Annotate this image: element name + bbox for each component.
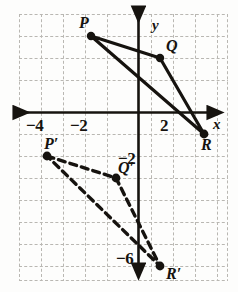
x-tick-pos2: 2 xyxy=(160,117,168,134)
y-tick-neg6: −6 xyxy=(116,250,133,267)
point-label-p: P xyxy=(79,15,89,31)
x-tick-neg4: −4 xyxy=(26,117,43,134)
vertex-p xyxy=(87,32,95,40)
coordinate-plane-figure: y x −4 −2 2 −2 −6 P Q R P′ Q′ R′ xyxy=(0,0,238,292)
vertex-r-prime xyxy=(156,262,165,271)
point-label-q-prime: Q′ xyxy=(118,160,134,176)
x-tick-neg2: −2 xyxy=(70,117,87,134)
vertex-p-prime xyxy=(43,152,52,161)
y-axis-label: y xyxy=(152,18,159,33)
point-label-r: R xyxy=(201,137,212,153)
point-label-p-prime: P′ xyxy=(44,136,58,152)
x-axis-label: x xyxy=(213,117,221,132)
vertex-q xyxy=(156,54,164,62)
point-label-q: Q xyxy=(166,38,178,54)
point-label-r-prime: R′ xyxy=(166,266,181,282)
